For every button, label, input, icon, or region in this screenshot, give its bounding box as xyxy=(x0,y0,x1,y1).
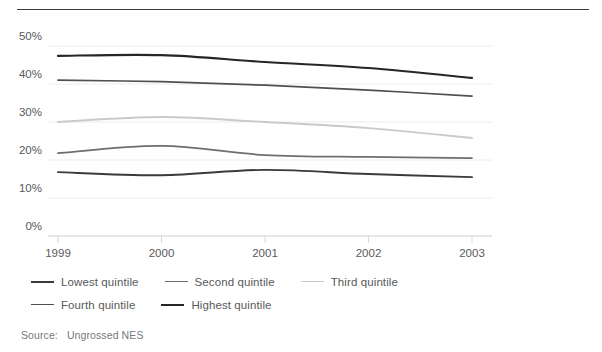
y-axis-tick-label: 40% xyxy=(19,68,42,80)
x-axis-tick-label: 2001 xyxy=(252,247,278,259)
legend-swatch-highest-quintile xyxy=(161,304,184,306)
legend-swatch-second-quintile xyxy=(165,281,188,282)
source-note: Source: Ungrossed NES xyxy=(21,329,144,341)
legend-label-fourth-quintile: Fourth quintile xyxy=(61,299,135,311)
legend-label-lowest-quintile: Lowest quintile xyxy=(61,276,139,288)
legend-row-2: Fourth quintile Highest quintile xyxy=(31,293,591,316)
legend-item-fourth-quintile[interactable]: Fourth quintile xyxy=(31,299,135,311)
y-axis-tick-label: 10% xyxy=(19,182,42,194)
legend-item-lowest-quintile[interactable]: Lowest quintile xyxy=(31,276,139,288)
series-line-third-quintile xyxy=(58,117,472,138)
y-axis-tick-label: 0% xyxy=(25,220,42,232)
legend-item-highest-quintile[interactable]: Highest quintile xyxy=(161,299,271,311)
plot-area: 0%10%20%30%40%50%19992000200120022003 xyxy=(0,0,602,270)
legend-swatch-lowest-quintile xyxy=(31,281,54,283)
legend-label-third-quintile: Third quintile xyxy=(331,276,398,288)
x-axis-tick-label: 2002 xyxy=(356,247,382,259)
chart-container: 0%10%20%30%40%50%19992000200120022003 Lo… xyxy=(0,0,602,352)
legend-label-highest-quintile: Highest quintile xyxy=(191,299,271,311)
source-label: Source: xyxy=(21,329,58,341)
y-axis-tick-label: 30% xyxy=(19,106,42,118)
legend-item-third-quintile[interactable]: Third quintile xyxy=(301,276,398,288)
series-line-fourth-quintile xyxy=(58,80,472,96)
y-axis-tick-label: 20% xyxy=(19,144,42,156)
series-line-lowest-quintile xyxy=(58,170,472,177)
y-axis-tick-label: 50% xyxy=(19,30,42,42)
x-axis-tick-label: 2000 xyxy=(149,247,175,259)
line-chart-svg: 0%10%20%30%40%50%19992000200120022003 xyxy=(0,0,602,270)
series-line-highest-quintile xyxy=(58,55,472,78)
series-line-second-quintile xyxy=(58,146,472,158)
legend-swatch-fourth-quintile xyxy=(31,304,54,305)
x-axis-tick-label: 1999 xyxy=(45,247,71,259)
legend-row-1: Lowest quintile Second quintile Third qu… xyxy=(31,270,591,293)
legend-swatch-third-quintile xyxy=(301,281,324,282)
source-text: Ungrossed NES xyxy=(67,329,144,341)
x-axis-tick-label: 2003 xyxy=(459,247,485,259)
legend-item-second-quintile[interactable]: Second quintile xyxy=(165,276,275,288)
legend-label-second-quintile: Second quintile xyxy=(195,276,275,288)
chart-legend: Lowest quintile Second quintile Third qu… xyxy=(31,270,591,316)
